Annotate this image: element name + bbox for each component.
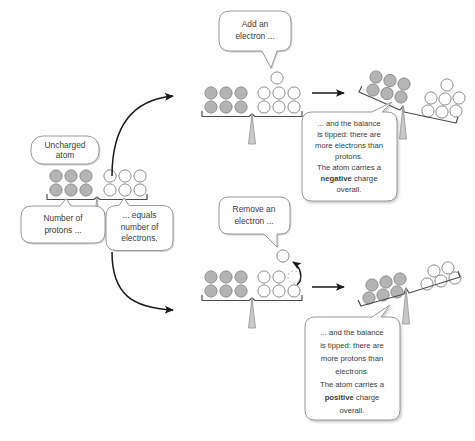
proton-circle xyxy=(235,285,247,297)
proton-circle xyxy=(380,276,392,288)
proton-circle xyxy=(220,271,232,283)
electron-group-negative xyxy=(422,79,465,118)
proton-circle xyxy=(220,101,232,113)
proton-circle xyxy=(205,285,217,297)
proton-circle xyxy=(80,184,92,196)
atomic-charge-diagram: Uncharged atom Number of protons ... ...… xyxy=(0,0,475,441)
negative-line-1: ... and the balance xyxy=(317,119,380,128)
electron-circle xyxy=(134,184,146,196)
proton-circle xyxy=(398,78,410,90)
negative-line-5: The atom carries a xyxy=(317,163,382,172)
curved-arrow-to-add-electron xyxy=(112,96,173,176)
electron-circle xyxy=(258,271,270,283)
proton-circle xyxy=(50,170,62,182)
add-electron-line-2: electron ... xyxy=(235,31,274,41)
positive-emphasis-after: charge xyxy=(354,393,380,402)
electron-circle xyxy=(119,184,131,196)
number-of-protons-line-2: protons ... xyxy=(44,225,81,235)
electron-circle xyxy=(258,285,270,297)
proton-circle xyxy=(370,71,382,83)
proton-circle xyxy=(235,87,247,99)
electron-circle xyxy=(441,79,453,91)
electron-group-positive xyxy=(421,262,461,290)
electron-circle xyxy=(273,87,285,99)
outgoing-electron-circle xyxy=(277,250,289,262)
proton-circle xyxy=(205,271,217,283)
equals-electrons-line-1: ... equals xyxy=(123,210,157,220)
number-of-protons-line-1: Number of xyxy=(43,213,83,223)
electron-circle xyxy=(288,87,300,99)
proton-circle xyxy=(381,87,393,99)
curved-arrow-electron-removed xyxy=(293,262,301,285)
proton-circle xyxy=(235,271,247,283)
electron-circle xyxy=(258,101,270,113)
negative-line-4: protons. xyxy=(335,152,363,161)
electron-circle xyxy=(288,285,300,297)
equals-electrons-line-2: number of xyxy=(121,222,159,232)
fulcrum xyxy=(249,298,256,328)
proton-circle xyxy=(65,170,77,182)
proton-group-add xyxy=(205,87,247,113)
electron-circle xyxy=(273,285,285,297)
negative-result-group: ... and the balance is tipped: there are… xyxy=(302,71,465,201)
proton-circle xyxy=(235,101,247,113)
positive-line-4: electrons. xyxy=(335,367,368,376)
fulcrum xyxy=(249,114,256,144)
electron-circle xyxy=(425,92,437,104)
electron-circle xyxy=(288,101,300,113)
electron-circle xyxy=(104,170,116,182)
proton-circle xyxy=(50,184,62,196)
electron-circle xyxy=(273,271,285,283)
diagram-canvas: Uncharged atom Number of protons ... ...… xyxy=(0,0,475,441)
negative-line-2: is tipped: there are xyxy=(317,130,381,139)
positive-line-2: is tipped: there are xyxy=(320,341,384,350)
positive-result-group: ... and the balance is tipped: there are… xyxy=(305,262,461,420)
uncharged-atom-line-1: Uncharged xyxy=(45,140,86,150)
electron-circle xyxy=(119,170,131,182)
proton-circle xyxy=(205,101,217,113)
proton-circle xyxy=(220,285,232,297)
proton-group-remove xyxy=(205,271,247,297)
electron-circle xyxy=(134,170,146,182)
proton-circle xyxy=(220,87,232,99)
positive-last-line: overall. xyxy=(340,406,365,415)
proton-circle xyxy=(80,170,92,182)
remove-electron-line-2: electron ... xyxy=(234,216,273,226)
negative-line-3: more electrons than xyxy=(315,141,383,150)
remove-electron-line-1: Remove an xyxy=(233,204,276,214)
electron-circle xyxy=(422,105,434,117)
fulcrum xyxy=(400,106,407,139)
proton-group-uncharged xyxy=(50,170,92,196)
proton-circle xyxy=(394,273,406,285)
electron-group-remove xyxy=(258,271,300,297)
electron-group-add xyxy=(258,87,300,113)
positive-line-5: The atom carries a xyxy=(320,380,385,389)
negative-last-line: overall. xyxy=(337,185,362,194)
proton-circle xyxy=(205,87,217,99)
proton-circle xyxy=(65,184,77,196)
positive-emphasis-line: positive charge xyxy=(325,393,380,402)
remove-electron-group: Remove an electron ... xyxy=(202,197,302,328)
curved-arrow-to-remove-electron xyxy=(112,252,173,310)
proton-circle xyxy=(366,279,378,291)
electron-circle xyxy=(436,106,448,118)
electron-circle xyxy=(453,92,465,104)
proton-circle xyxy=(367,84,379,96)
proton-circle xyxy=(384,74,396,86)
electron-circle xyxy=(273,101,285,113)
positive-bold-word: positive xyxy=(325,393,355,402)
add-electron-group: Add an electron ... xyxy=(202,11,302,144)
electron-circle xyxy=(439,93,451,105)
uncharged-atom-group: Uncharged atom Number of protons ... ...… xyxy=(21,136,173,251)
fulcrum xyxy=(403,288,410,324)
negative-emphasis-after: charge xyxy=(352,174,378,183)
positive-line-3: more protons than xyxy=(321,354,383,363)
negative-bold-word: negative xyxy=(321,174,353,183)
negative-emphasis-line: negative charge xyxy=(321,174,378,183)
equals-electrons-line-3: electrons. xyxy=(121,233,157,243)
electron-circle xyxy=(258,87,270,99)
electron-circle xyxy=(450,105,462,117)
proton-circle xyxy=(395,91,407,103)
uncharged-atom-line-2: atom xyxy=(56,150,75,160)
electron-circle xyxy=(104,184,116,196)
